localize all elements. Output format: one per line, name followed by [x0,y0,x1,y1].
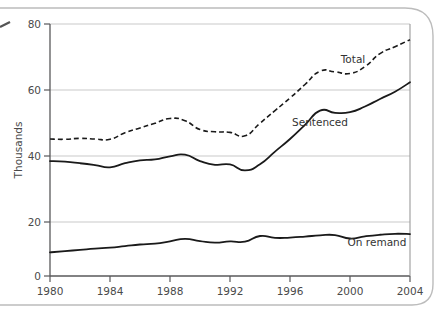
series-lines [50,40,410,253]
y-tick-label: 40 [28,150,41,162]
x-tick-label: 2004 [397,285,424,297]
y-axis-title: Thousands [12,122,24,180]
chart-figure: 80 60 40 20 0 1980 1984 1988 1992 1996 2… [0,0,441,312]
series-line-sentenced [50,82,410,170]
x-axis-ticks [50,276,410,282]
y-tick-label: 60 [28,84,41,96]
series-annotations: Total Sentenced On remand [292,53,406,248]
x-tick-label: 1996 [277,285,304,297]
x-tick-label: 1992 [217,285,244,297]
x-tick-label: 1988 [157,285,184,297]
series-label-sentenced: Sentenced [292,116,348,128]
y-tick-label: 0 [34,270,41,282]
y-axis-ticks [44,24,50,276]
x-tick-label: 1984 [97,285,124,297]
y-tick-label: 20 [28,216,41,228]
y-axis-tick-labels: 80 60 40 20 0 [28,18,41,282]
y-tick-label: 80 [28,18,41,30]
x-tick-label: 2000 [337,285,364,297]
series-label-on-remand: On remand [348,236,407,248]
line-chart: 80 60 40 20 0 1980 1984 1988 1992 1996 2… [0,0,441,312]
x-tick-label: 1980 [37,285,64,297]
x-axis-tick-labels: 1980 1984 1988 1992 1996 2000 2004 [37,285,424,297]
series-label-total: Total [340,53,366,65]
